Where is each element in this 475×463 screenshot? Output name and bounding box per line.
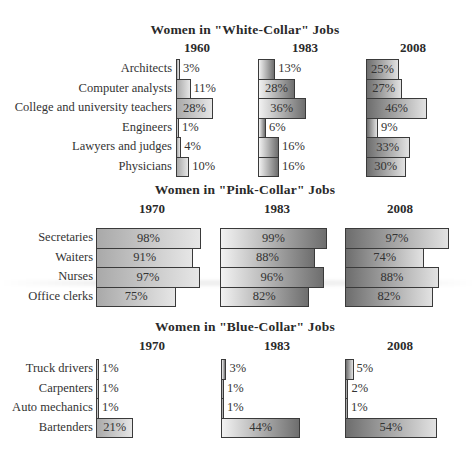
- category-label: Nurses: [58, 269, 93, 284]
- bar: 27%: [366, 79, 402, 100]
- bar-value-label: 2%: [351, 381, 368, 396]
- category-label: Engineers: [122, 120, 172, 135]
- bar: 21%: [96, 418, 133, 439]
- bar: 46%: [366, 98, 427, 119]
- year-label: 1970: [139, 201, 165, 217]
- bar-value-label: 28%: [265, 81, 288, 96]
- bar-value-label: 88%: [381, 270, 404, 285]
- bar: [221, 379, 224, 400]
- bar-value-label: 1%: [102, 381, 119, 396]
- bar: [176, 157, 189, 178]
- category-label: Lawyers and judges: [72, 139, 172, 154]
- bar-value-label: 97%: [136, 270, 159, 285]
- bar-value-label: 25%: [371, 62, 394, 77]
- bar: 98%: [96, 228, 201, 249]
- bar: [96, 379, 99, 400]
- bar-value-label: 1%: [182, 120, 199, 135]
- bar: 99%: [220, 228, 327, 249]
- bar: [96, 398, 99, 419]
- bar-value-label: 11%: [194, 81, 216, 96]
- bar: [345, 398, 348, 419]
- panel-title: Women in "Blue-Collar" Jobs: [155, 319, 335, 335]
- bar-value-label: 88%: [256, 250, 279, 265]
- bar-value-label: 82%: [253, 289, 276, 304]
- bar: 44%: [221, 418, 300, 439]
- category-label: Bartenders: [39, 420, 93, 435]
- bar-value-label: 1%: [351, 400, 368, 415]
- bar: 88%: [345, 267, 439, 288]
- bar: 30%: [366, 157, 406, 178]
- category-label: Truck drivers: [26, 361, 93, 376]
- panel-title: Women in "White-Collar" Jobs: [151, 22, 340, 38]
- year-label: 2008: [387, 201, 413, 217]
- bar-value-label: 9%: [381, 120, 398, 135]
- bar: [258, 157, 279, 178]
- bar-value-label: 1%: [102, 361, 119, 376]
- bar-value-label: 1%: [227, 400, 244, 415]
- bar: [345, 379, 348, 400]
- bar: [96, 359, 99, 380]
- bar: [221, 398, 224, 419]
- bar: 28%: [258, 79, 295, 100]
- category-label: Physicians: [119, 159, 172, 174]
- bar-value-label: 28%: [183, 101, 206, 116]
- bar: [176, 79, 191, 100]
- bar-value-label: 6%: [269, 120, 286, 135]
- bar-value-label: 33%: [376, 140, 399, 155]
- bar-value-label: 16%: [282, 139, 305, 154]
- bar-value-label: 5%: [357, 361, 374, 376]
- category-label: Auto mechanics: [12, 400, 93, 415]
- bar: [258, 59, 275, 80]
- bar-value-label: 1%: [227, 381, 244, 396]
- bar-value-label: 74%: [373, 250, 396, 265]
- bar-value-label: 44%: [249, 420, 272, 435]
- bar: 28%: [176, 98, 213, 119]
- year-label: 1960: [184, 40, 210, 56]
- category-label: Carpenters: [39, 381, 93, 396]
- bar: 74%: [345, 248, 424, 269]
- year-label: 1970: [139, 338, 165, 354]
- bar: 54%: [345, 418, 437, 439]
- bar: 97%: [96, 267, 200, 288]
- bar: 91%: [96, 248, 193, 269]
- bar: 97%: [345, 228, 449, 249]
- bar: 33%: [366, 137, 410, 158]
- category-label: Waiters: [55, 250, 93, 265]
- bar-value-label: 13%: [278, 61, 301, 76]
- bar: 75%: [96, 287, 176, 308]
- bar: 82%: [220, 287, 309, 308]
- bar-value-label: 54%: [379, 420, 402, 435]
- category-label: College and university teachers: [15, 100, 172, 115]
- bar-value-label: 3%: [183, 61, 200, 76]
- bar: [366, 118, 378, 139]
- category-label: Secretaries: [38, 230, 93, 245]
- bar: [176, 118, 179, 139]
- bar-value-label: 46%: [385, 101, 408, 116]
- year-label: 2008: [387, 338, 413, 354]
- bar-value-label: 30%: [374, 159, 397, 174]
- category-label: Computer analysts: [79, 81, 172, 96]
- bar-value-label: 21%: [103, 420, 126, 435]
- bar: 96%: [220, 267, 324, 288]
- bar: [258, 137, 279, 158]
- bar: 25%: [366, 59, 399, 80]
- bar-value-label: 4%: [184, 139, 201, 154]
- bar-value-label: 99%: [262, 231, 285, 246]
- bar-value-label: 16%: [282, 159, 305, 174]
- bar-value-label: 10%: [192, 159, 215, 174]
- year-label: 2008: [400, 40, 426, 56]
- bar-value-label: 75%: [125, 289, 148, 304]
- bar-value-label: 82%: [377, 289, 400, 304]
- category-label: Office clerks: [28, 289, 93, 304]
- bar: [176, 59, 180, 80]
- year-label: 1983: [264, 201, 290, 217]
- bar-value-label: 98%: [137, 231, 160, 246]
- bar-value-label: 27%: [372, 81, 395, 96]
- year-label: 1983: [264, 338, 290, 354]
- bar: [345, 359, 354, 380]
- bar-value-label: 91%: [133, 250, 156, 265]
- bar: [221, 359, 226, 380]
- bar-value-label: 1%: [102, 400, 119, 415]
- bar-value-label: 3%: [229, 361, 246, 376]
- bar: [176, 137, 181, 158]
